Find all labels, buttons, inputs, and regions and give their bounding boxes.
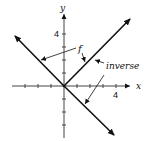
y-axis-label: y <box>59 3 66 13</box>
y-tick-label-4: 4 <box>54 29 59 39</box>
inverse-pointer-lower <box>85 75 104 104</box>
inverse-label: inverse <box>106 61 139 71</box>
x-axis-label: x <box>136 81 141 91</box>
f-left-branch <box>15 36 64 86</box>
f-label: f <box>77 43 84 54</box>
function-inverse-diagram: x 4 y 4 f inverse <box>0 0 146 141</box>
x-axis <box>12 84 130 88</box>
origin-point <box>63 85 66 88</box>
f-pointer-left <box>41 48 76 60</box>
inverse-pointer-upper <box>95 60 104 63</box>
y-axis <box>62 14 66 138</box>
inverse-lower-branch <box>64 86 114 135</box>
f-pointer-right <box>82 53 85 62</box>
x-tick-label-4: 4 <box>113 90 118 100</box>
f-right-branch <box>64 19 130 86</box>
